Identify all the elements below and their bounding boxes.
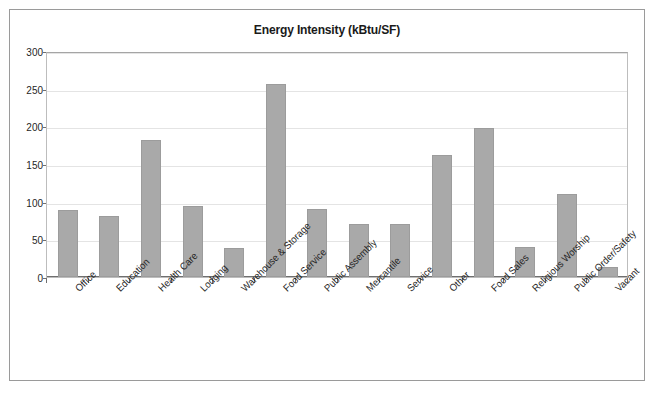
x-tick-label: Other xyxy=(447,286,455,294)
y-axis: 050100150200250300 xyxy=(10,52,43,278)
y-tick-label: 0 xyxy=(15,272,44,284)
x-tick-label: Food Service xyxy=(281,286,289,294)
y-tick-label: 150 xyxy=(15,159,44,171)
y-tick-label: 100 xyxy=(15,197,44,209)
gridline xyxy=(47,53,627,54)
gridline xyxy=(47,166,627,167)
bar xyxy=(58,210,78,277)
x-axis-labels: OfficeEducationHealth CareLodgingWarehou… xyxy=(46,284,628,380)
bar xyxy=(99,216,119,277)
x-tick-mark xyxy=(46,278,47,283)
plot-area xyxy=(46,52,628,278)
x-tick-label: Religious Worship xyxy=(530,286,538,294)
y-tick-label: 50 xyxy=(15,234,44,246)
x-tick-label: Health Care xyxy=(156,286,164,294)
gridline xyxy=(47,241,627,242)
chart-title: Energy Intensity (kBtu/SF) xyxy=(32,22,622,37)
gridline xyxy=(47,204,627,205)
bar xyxy=(432,155,452,277)
gridline xyxy=(47,91,627,92)
gridline xyxy=(47,128,627,129)
chart-frame: Energy Intensity (kBtu/SF) 0501001502002… xyxy=(9,9,645,381)
x-tick-label: Public Order/Safety xyxy=(572,286,580,294)
x-tick-label: Lodging xyxy=(198,286,206,294)
x-tick-label: Mercantile xyxy=(364,286,372,294)
x-tick-label: Education xyxy=(114,286,122,294)
x-tick-label: Vacant xyxy=(613,286,621,294)
x-tick-label: Food Sales xyxy=(489,286,497,294)
bar xyxy=(474,128,494,277)
bar xyxy=(224,248,244,277)
y-tick-label: 200 xyxy=(15,121,44,133)
y-tick-label: 250 xyxy=(15,84,44,96)
x-tick-label: Warehouse & Storage xyxy=(239,286,247,294)
x-tick-label: Service xyxy=(405,286,413,294)
x-tick-label: Office xyxy=(73,286,81,294)
y-tick-label: 300 xyxy=(15,46,44,58)
x-tick-label: Public Assembly xyxy=(322,286,330,294)
